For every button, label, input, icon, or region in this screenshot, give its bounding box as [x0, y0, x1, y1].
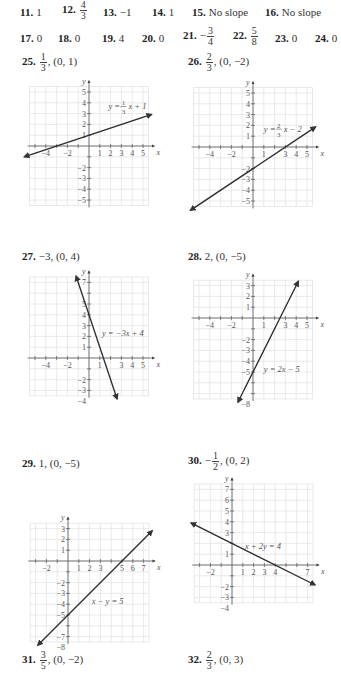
x-tick-label: 1 — [241, 568, 245, 577]
x-tick-label: −2 — [42, 564, 51, 573]
graph-28: xy−4−21345321−2−3−4−5−8y = 2x − 5 — [192, 270, 325, 409]
y-tick-label: 4 — [82, 311, 86, 320]
y-tick-label: 1 — [225, 550, 229, 559]
y-tick-label: −2 — [77, 164, 86, 173]
x-tick-label: 3 — [119, 361, 123, 370]
equation-label: y = — [107, 101, 120, 111]
x-tick-label: 5 — [305, 150, 309, 159]
x-tick-label: −4 — [206, 321, 215, 330]
x-axis-label: x — [155, 148, 160, 157]
x-tick-label: 2 — [88, 564, 92, 573]
y-axis-label: y — [245, 270, 250, 279]
x-tick-label: 5 — [120, 564, 124, 573]
equation-label: x + 2y = 4 — [244, 541, 282, 551]
x-tick-label: 1 — [262, 150, 266, 159]
x-tick-label: 1 — [77, 564, 81, 573]
y-tick-label: 1 — [82, 131, 86, 140]
x-tick-label: 5 — [141, 361, 145, 370]
y-tick-label: −7 — [56, 633, 65, 642]
y-tick-label: 1 — [246, 132, 250, 141]
x-tick-label: 3 — [98, 564, 102, 573]
x-axis-label: x — [319, 320, 324, 329]
x-tick-label: 4 — [294, 150, 298, 159]
y-tick-label: 3 — [225, 529, 229, 538]
y-tick-label: −4 — [77, 185, 86, 194]
graph-25: xy−4−21234554321−2−3−4−5y = 13x + 1 — [24, 77, 160, 208]
y-tick-label: 3 — [246, 111, 250, 120]
x-tick-label: 7 — [142, 564, 146, 573]
graph-29: xy−2123567321−2−3−4−5−7−8x − y = 5 — [28, 513, 161, 652]
y-tick-label: 4 — [246, 100, 250, 109]
y-axis-label: y — [245, 78, 250, 87]
y-axis-label: y — [224, 474, 229, 483]
equation-label: y = 2x − 5 — [263, 364, 300, 374]
y-tick-label: 1 — [246, 303, 250, 312]
y-axis-label: y — [81, 77, 86, 86]
svg-text:2: 2 — [277, 122, 281, 130]
y-tick-label: −3 — [241, 346, 250, 355]
y-tick-label: 4 — [82, 99, 86, 108]
y-tick-label: −5 — [241, 197, 250, 206]
y-tick-label: −5 — [241, 368, 250, 377]
y-tick-label: 1 — [61, 546, 65, 555]
y-axis-label: y — [81, 267, 86, 276]
graph-line — [38, 531, 152, 645]
svg-text:x − 2: x − 2 — [283, 124, 303, 134]
x-tick-label: 3 — [262, 568, 266, 577]
equation-label: x − y = 5 — [91, 596, 124, 606]
y-tick-label: −2 — [241, 336, 250, 345]
y-tick-label: −3 — [241, 175, 250, 184]
y-tick-label: 5 — [225, 507, 229, 516]
graph-26: xy−4−2134554321−2−3−4−5y = 23x − 2 — [190, 78, 324, 211]
x-tick-label: 5 — [141, 149, 145, 158]
y-tick-label: −3 — [56, 589, 65, 598]
svg-text:x + 1: x + 1 — [127, 101, 146, 111]
y-tick-label: 5 — [246, 89, 250, 98]
x-axis-label: x — [155, 360, 160, 369]
x-axis-label: x — [320, 567, 325, 576]
graphs-canvas: xy−4−21234554321−2−3−4−5y = 13x + 1xy−4−… — [0, 0, 341, 673]
x-tick-label: −2 — [63, 149, 72, 158]
x-tick-label: −2 — [227, 321, 236, 330]
graph-27: xy−4−21345754321−2−3−4y = −3x + 4 — [28, 267, 161, 406]
svg-text:1: 1 — [122, 99, 126, 107]
y-tick-label: 2 — [246, 292, 250, 301]
x-tick-label: 5 — [305, 321, 309, 330]
x-axis-label: x — [319, 149, 324, 158]
y-tick-label: 6 — [225, 496, 229, 505]
y-tick-label: −3 — [77, 174, 86, 183]
y-tick-label: 2 — [246, 121, 250, 130]
y-tick-label: −8 — [56, 643, 65, 652]
y-tick-label: 1 — [82, 343, 86, 352]
x-tick-label: 1 — [262, 321, 266, 330]
y-tick-label: −5 — [77, 196, 86, 205]
x-tick-label: 6 — [131, 564, 135, 573]
x-tick-label: −4 — [42, 361, 51, 370]
x-tick-label: 4 — [273, 568, 277, 577]
x-tick-label: 2 — [109, 149, 113, 158]
y-tick-label: 3 — [82, 110, 86, 119]
svg-text:3: 3 — [277, 131, 281, 139]
y-tick-label: 3 — [61, 525, 65, 534]
equation-label: y = — [263, 124, 276, 134]
y-tick-label: −4 — [241, 186, 250, 195]
x-tick-label: 3 — [283, 321, 287, 330]
y-tick-label: −4 — [220, 604, 229, 613]
x-tick-label: 4 — [130, 149, 134, 158]
x-tick-label: −2 — [206, 568, 215, 577]
x-tick-label: 3 — [283, 150, 287, 159]
y-tick-label: −8 — [241, 400, 250, 409]
y-tick-label: −3 — [77, 386, 86, 395]
x-tick-label: 1 — [98, 149, 102, 158]
y-tick-label: −2 — [241, 165, 250, 174]
x-tick-label: 4 — [130, 361, 134, 370]
y-tick-label: −4 — [77, 397, 86, 406]
x-tick-label: 1 — [98, 361, 102, 370]
y-tick-label: −2 — [220, 583, 229, 592]
y-tick-label: −2 — [56, 579, 65, 588]
x-tick-label: 2 — [252, 568, 256, 577]
y-axis-label: y — [60, 513, 65, 522]
x-tick-label: −4 — [206, 150, 215, 159]
y-tick-label: 2 — [82, 332, 86, 341]
x-tick-label: 7 — [306, 568, 310, 577]
